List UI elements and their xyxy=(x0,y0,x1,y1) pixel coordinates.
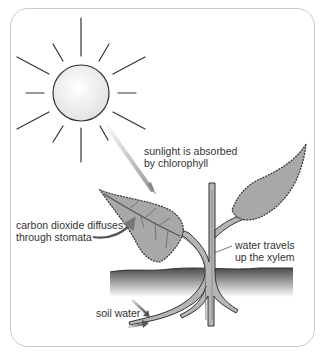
right-leaf xyxy=(232,144,306,220)
carbon-dioxide-label-line-2: through stomata xyxy=(16,231,123,243)
soil-water-label: soil water xyxy=(96,307,140,319)
xylem-leader-line xyxy=(214,246,232,253)
xylem-label-line-2: up the xylem xyxy=(235,251,295,263)
carbon-dioxide-label: carbon dioxide diffuses through stomata xyxy=(16,219,123,243)
plant-photosynthesis-diagram xyxy=(0,0,323,357)
carbon-dioxide-label-line-1: carbon dioxide diffuses xyxy=(16,219,123,231)
soil-water-label-text: soil water xyxy=(96,307,140,319)
sunlight-label: sunlight is absorbed by chlorophyll xyxy=(144,145,237,169)
xylem-label: water travels up the xylem xyxy=(235,239,295,263)
sunlight-label-line-2: by chlorophyll xyxy=(144,157,237,169)
xylem-label-line-1: water travels xyxy=(235,239,295,251)
sunlight-label-line-1: sunlight is absorbed xyxy=(144,145,237,157)
sun-icon xyxy=(17,18,145,162)
